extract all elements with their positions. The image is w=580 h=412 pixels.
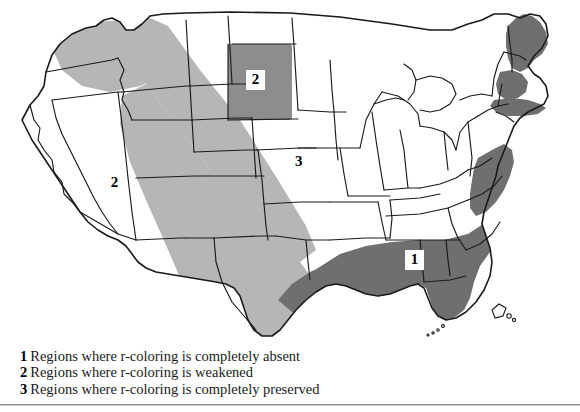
legend-key-1: 1	[20, 348, 27, 364]
map-label-2-west: 2	[105, 173, 124, 193]
legend-text-1: Regions where r-coloring is completely a…	[30, 348, 300, 364]
map-label-1-south: 1	[405, 250, 424, 270]
map-label-3-central: 3	[295, 153, 303, 170]
legend-item-1: 1Regions where r-coloring is completely …	[20, 348, 565, 364]
region-absent-tidewater	[470, 144, 514, 216]
footer-divider-shadow	[0, 405, 580, 406]
legend-text-2: Regions where r-coloring is weakened	[30, 364, 253, 380]
us-dialect-map: 2 2 1 3	[0, 0, 580, 345]
map-label-2-dakotas: 2	[246, 70, 265, 90]
legend-key-2: 2	[20, 364, 27, 380]
map-legend: 1Regions where r-coloring is completely …	[20, 348, 565, 397]
legend-item-2: 2Regions where r-coloring is weakened	[20, 364, 565, 380]
map-svg	[0, 0, 580, 345]
legend-item-3: 3Regions where r-coloring is completely …	[20, 381, 565, 397]
legend-text-3: Regions where r-coloring is completely p…	[30, 381, 319, 397]
legend-key-3: 3	[20, 381, 27, 397]
